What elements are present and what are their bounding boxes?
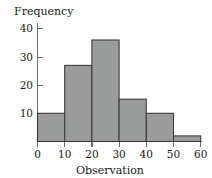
- x-tick-label-60: 60: [194, 148, 207, 160]
- y-tick-label-20: 20: [20, 79, 33, 91]
- x-tick-label-10: 10: [58, 148, 71, 160]
- histogram-bar-30-40: [119, 99, 146, 141]
- histogram-bar-40-50: [146, 113, 173, 141]
- histogram-figure: Frequency 40 30 20 10 0 10 20 3: [0, 0, 212, 178]
- y-tick-label-10: 10: [20, 107, 33, 119]
- x-tick-label-40: 40: [140, 148, 153, 160]
- x-tick-label-50: 50: [167, 148, 180, 160]
- x-tick-label-20: 20: [85, 148, 98, 160]
- y-axis-title: Frequency: [14, 5, 74, 18]
- histogram-bar-10-20: [65, 65, 92, 141]
- x-tick-label-0: 0: [34, 148, 41, 160]
- y-tick-label-40: 40: [20, 22, 33, 34]
- histogram-bar-50-60: [174, 136, 201, 142]
- x-axis-title: Observation: [76, 164, 144, 177]
- y-tick-label-30: 30: [20, 51, 33, 63]
- histogram-bar-20-30: [92, 40, 119, 142]
- histogram-bar-0-10: [38, 113, 65, 141]
- histogram-plot-area: Frequency 40 30 20 10 0 10 20 3: [0, 0, 212, 178]
- x-tick-label-30: 30: [112, 148, 125, 160]
